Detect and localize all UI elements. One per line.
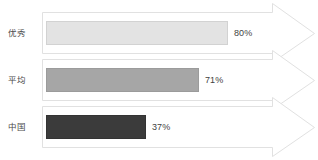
bar-average[interactable]: [46, 68, 199, 92]
value-label-china: 37%: [152, 106, 170, 148]
category-label-excellent: 优秀: [8, 12, 40, 54]
bar-track: 80%: [46, 12, 314, 54]
bar-excellent[interactable]: [46, 21, 228, 45]
category-label-average: 平均: [8, 59, 40, 101]
category-label-china: 中国: [8, 106, 40, 148]
bar-china[interactable]: [46, 115, 146, 139]
bar-track: 71%: [46, 59, 314, 101]
chart-row: 中国 37%: [0, 106, 318, 148]
value-label-excellent: 80%: [234, 12, 252, 54]
chart-row: 优秀 80%: [0, 12, 318, 54]
chart-row: 平均 71%: [0, 59, 318, 101]
value-label-average: 71%: [205, 59, 223, 101]
bar-track: 37%: [46, 106, 314, 148]
arrow-bar-chart: 优秀 80% 平均 71% 中国 37%: [0, 0, 318, 160]
